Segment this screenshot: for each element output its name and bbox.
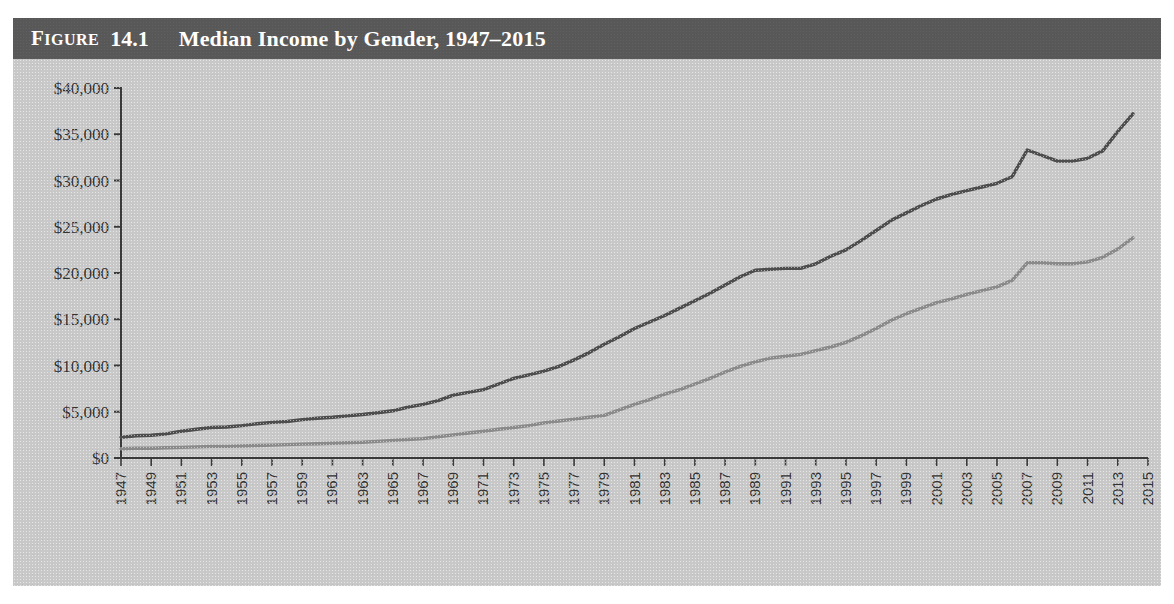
x-axis-tick-label: 2001 [928,472,945,505]
x-axis-tick-label: 2009 [1048,472,1065,505]
x-axis-tick-label: 1947 [112,472,129,505]
line-chart-plot: $0$5,000$10,000$15,000$20,000$25,000$30,… [13,59,1161,586]
series-line-male [121,114,1133,438]
x-axis-tick-label: 1985 [686,472,703,505]
x-axis-tick-label: 1969 [444,472,461,505]
x-axis-tick-label: 1977 [565,472,582,505]
x-axis-tick-label: 1971 [474,472,491,505]
figure-label-smallcaps: IGURE [44,31,99,48]
x-axis-tick-label: 2003 [958,472,975,505]
x-axis-tick-label: 1949 [142,472,159,505]
x-axis-tick-label: 1953 [203,472,220,505]
x-axis-tick-label: 1965 [384,472,401,505]
figure-label-cap: F [31,26,44,50]
figure-number: 14.1 [110,26,149,52]
x-axis-tick-label: 1959 [293,472,310,505]
x-axis-tick-label: 2013 [1109,472,1126,505]
x-axis-tick-label: 1999 [897,472,914,505]
y-axis-tick-label: $35,000 [54,125,109,144]
chart-panel: $0$5,000$10,000$15,000$20,000$25,000$30,… [13,59,1161,586]
figure-container: FIGURE 14.1 Median Income by Gender, 194… [0,0,1174,604]
figure-label: FIGURE [31,26,99,51]
x-axis-tick-label: 1967 [414,472,431,505]
x-axis-tick-label: 2005 [988,472,1005,505]
x-axis-tick-label: 2015 [1139,472,1156,505]
x-axis-tick-label: 2011 [1079,472,1096,504]
x-axis-tick-label: 1961 [323,472,340,505]
y-axis-tick-label: $25,000 [54,218,109,237]
x-axis-tick-label: 2007 [1018,472,1035,505]
x-axis-tick-label: 1963 [354,472,371,505]
x-axis-tick-label: 1979 [595,472,612,505]
figure-header-band: FIGURE 14.1 Median Income by Gender, 194… [13,18,1161,59]
series-line-female [121,238,1133,449]
x-axis-tick-label: 1981 [626,472,643,505]
y-axis-tick-label: $30,000 [54,172,109,191]
y-axis-tick-label: $5,000 [62,403,109,422]
x-axis-tick-label: 1957 [263,472,280,505]
y-axis-tick-label: $15,000 [54,310,109,329]
x-axis-tick-label: 1987 [716,472,733,505]
y-axis-tick-label: $40,000 [54,79,109,98]
x-axis-tick-label: 1993 [807,472,824,505]
x-axis-tick-label: 1991 [777,472,794,505]
y-axis-tick-label: $10,000 [54,357,109,376]
x-axis-tick-label: 1955 [233,472,250,505]
x-axis-tick-label: 1973 [505,472,522,505]
y-axis-tick-label: $20,000 [54,264,109,283]
x-axis-tick-label: 1995 [837,472,854,505]
x-axis-tick-label: 1983 [656,472,673,505]
figure-title: Median Income by Gender, 1947–2015 [179,26,546,52]
y-axis-tick-label: $0 [92,449,109,468]
x-axis-tick-label: 1997 [867,472,884,505]
x-axis-tick-label: 1951 [172,472,189,505]
x-axis-tick-label: 1989 [746,472,763,505]
x-axis-tick-label: 1975 [535,472,552,505]
